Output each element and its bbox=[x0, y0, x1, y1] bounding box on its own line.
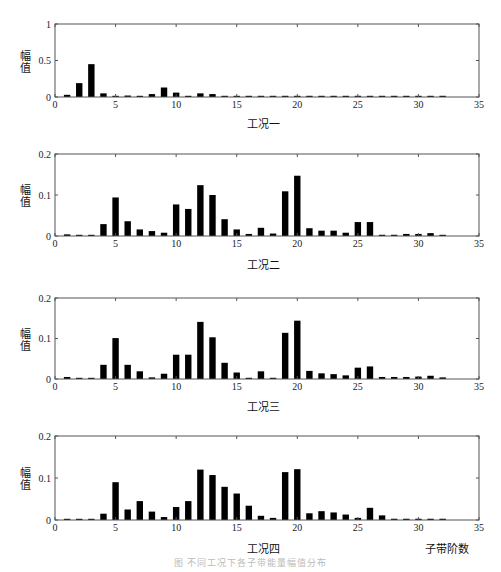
bar bbox=[124, 221, 130, 236]
bar bbox=[330, 512, 336, 520]
x-tick-label: 10 bbox=[171, 522, 181, 533]
chart-panel-1: 0510152025303500.51 幅值 工况一 bbox=[0, 0, 501, 135]
bar bbox=[124, 365, 130, 379]
bar bbox=[100, 93, 106, 97]
bar bbox=[221, 219, 227, 236]
x-tick-label: 0 bbox=[53, 522, 58, 533]
bar bbox=[100, 224, 106, 236]
x-tick-label: 30 bbox=[413, 381, 423, 392]
x-axis-title: 子带阶数 bbox=[425, 540, 469, 556]
x-tick-label: 20 bbox=[292, 238, 302, 249]
y-tick-label: 0.1 bbox=[39, 473, 52, 484]
bar bbox=[185, 209, 191, 236]
bar bbox=[306, 513, 312, 520]
bar bbox=[161, 374, 167, 379]
bar bbox=[209, 337, 215, 379]
bar-chart-2: 0510152025303500.10.2 bbox=[0, 140, 501, 275]
x-tick-label: 0 bbox=[53, 238, 58, 249]
chart-panel-4: 0510152025303500.10.2 幅值 工况四 子带阶数 bbox=[0, 420, 501, 570]
bar bbox=[149, 231, 155, 236]
x-tick-label: 10 bbox=[171, 238, 181, 249]
x-tick-label: 10 bbox=[171, 381, 181, 392]
x-tick-label: 30 bbox=[413, 238, 423, 249]
bar bbox=[330, 374, 336, 379]
bar bbox=[197, 322, 203, 379]
x-tick-label: 20 bbox=[292, 381, 302, 392]
x-tick-label: 25 bbox=[353, 238, 363, 249]
x-tick-label: 35 bbox=[474, 381, 484, 392]
bar-chart-3: 0510152025303500.10.2 bbox=[0, 280, 501, 415]
bar bbox=[112, 338, 118, 379]
bar bbox=[197, 470, 203, 520]
bar bbox=[318, 511, 324, 520]
x-tick-label: 0 bbox=[53, 381, 58, 392]
bar bbox=[294, 176, 300, 236]
bar bbox=[258, 228, 264, 236]
y-tick-label: 0.5 bbox=[39, 55, 52, 66]
bar bbox=[258, 516, 264, 520]
y-tick-label: 0.2 bbox=[39, 431, 52, 442]
bar bbox=[173, 355, 179, 379]
chart-panel-3: 0510152025303500.10.2 幅值 工况三 bbox=[0, 280, 501, 415]
bar bbox=[112, 197, 118, 236]
bar bbox=[282, 191, 288, 236]
x-tick-label: 15 bbox=[232, 522, 242, 533]
x-tick-label: 5 bbox=[113, 238, 118, 249]
x-tick-label: 15 bbox=[232, 238, 242, 249]
bar bbox=[88, 64, 94, 97]
bar bbox=[294, 469, 300, 520]
x-tick-label: 20 bbox=[292, 99, 302, 110]
y-tick-label: 0 bbox=[46, 231, 51, 242]
bar bbox=[282, 333, 288, 379]
x-tick-label: 30 bbox=[413, 522, 423, 533]
bar bbox=[173, 204, 179, 236]
bar bbox=[185, 355, 191, 379]
plot-frame bbox=[55, 24, 479, 97]
y-tick-label: 0 bbox=[46, 92, 51, 103]
y-tick-label: 0 bbox=[46, 515, 51, 526]
bar bbox=[221, 487, 227, 520]
condition-label: 工况一 bbox=[247, 115, 280, 131]
bar bbox=[197, 185, 203, 236]
bar bbox=[343, 515, 349, 520]
bar bbox=[318, 373, 324, 379]
condition-label: 工况二 bbox=[247, 256, 280, 272]
bar bbox=[306, 371, 312, 379]
y-tick-label: 0 bbox=[46, 374, 51, 385]
bar bbox=[379, 515, 385, 520]
y-axis-label: 幅值 bbox=[16, 184, 32, 208]
bar bbox=[258, 371, 264, 379]
x-tick-label: 5 bbox=[113, 99, 118, 110]
x-tick-label: 35 bbox=[474, 238, 484, 249]
condition-label: 工况四 bbox=[247, 540, 280, 556]
bar bbox=[294, 321, 300, 379]
bar bbox=[306, 228, 312, 236]
bar bbox=[234, 494, 240, 520]
figure-caption: 图 不同工况下各子带能量幅值分布 bbox=[0, 556, 501, 569]
bar bbox=[318, 231, 324, 236]
bar bbox=[367, 508, 373, 520]
bar bbox=[100, 365, 106, 379]
y-tick-label: 0.2 bbox=[39, 149, 52, 160]
bar bbox=[137, 371, 143, 379]
x-tick-label: 30 bbox=[413, 99, 423, 110]
condition-label: 工况三 bbox=[247, 398, 280, 414]
x-tick-label: 35 bbox=[474, 99, 484, 110]
bar bbox=[367, 366, 373, 379]
bar bbox=[100, 514, 106, 520]
bar bbox=[137, 501, 143, 520]
bar bbox=[209, 475, 215, 520]
y-axis-label: 幅值 bbox=[16, 467, 32, 491]
y-axis-label: 幅值 bbox=[16, 50, 32, 74]
x-tick-label: 10 bbox=[171, 99, 181, 110]
bar bbox=[246, 506, 252, 520]
x-tick-label: 5 bbox=[113, 381, 118, 392]
y-axis-label: 幅值 bbox=[16, 328, 32, 352]
x-tick-label: 15 bbox=[232, 99, 242, 110]
x-tick-label: 25 bbox=[353, 99, 363, 110]
bar bbox=[209, 195, 215, 236]
bar bbox=[137, 229, 143, 236]
y-tick-label: 0.1 bbox=[39, 190, 52, 201]
y-tick-label: 0.2 bbox=[39, 293, 52, 304]
bar bbox=[197, 93, 203, 97]
